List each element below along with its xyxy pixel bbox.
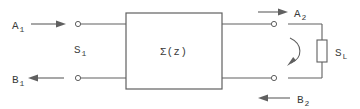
left-arrow-icon-b1 xyxy=(28,75,64,82)
label-sl: SL xyxy=(335,44,348,61)
label-a2-sub: 2 xyxy=(301,13,307,22)
label-b2-sub: 2 xyxy=(304,99,310,108)
label-s1-sub: 1 xyxy=(81,49,87,58)
label-b2: B2 xyxy=(297,91,310,108)
network-block-label: Σ(z) xyxy=(160,46,187,58)
label-a1: A1 xyxy=(12,17,25,34)
terminal-node-input-bottom xyxy=(75,75,80,80)
left-arrow-icon-b2 xyxy=(258,95,290,102)
label-a2: A2 xyxy=(294,5,307,22)
label-a1-base: A xyxy=(12,20,19,32)
curved-arrow-icon-load xyxy=(287,38,300,66)
right-arrow-icon-a2 xyxy=(258,9,288,16)
label-s1: S1 xyxy=(74,41,87,58)
label-sl-base: S xyxy=(335,47,342,59)
label-b1: B1 xyxy=(12,71,25,88)
circuit-diagram: A1 B1 S1 Σ(z) A2 B2 SL xyxy=(0,0,360,109)
label-b2-base: B xyxy=(297,94,304,106)
label-b1-sub: 1 xyxy=(19,79,25,88)
terminal-node-output-top xyxy=(271,21,276,26)
terminal-node-input-top xyxy=(75,21,80,26)
label-sl-sub: L xyxy=(342,52,348,61)
right-arrow-icon-a1 xyxy=(31,21,66,28)
label-a2-base: A xyxy=(294,8,301,20)
terminal-node-output-bottom xyxy=(271,75,276,80)
label-a1-sub: 1 xyxy=(19,25,25,34)
load-impedance-body xyxy=(317,40,327,62)
label-s1-base: S xyxy=(74,44,81,56)
label-b1-base: B xyxy=(12,74,19,86)
